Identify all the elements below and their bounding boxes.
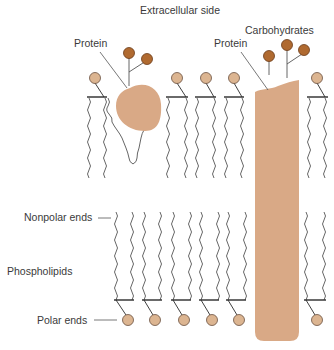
polar-head <box>150 315 161 326</box>
polar-head <box>234 315 245 326</box>
carbohydrate <box>124 48 135 59</box>
phospholipid-outer-5 <box>307 73 328 179</box>
phospholipid-inner-6 <box>304 212 326 326</box>
polar-head <box>201 73 212 84</box>
carbohydrate-chain-left <box>124 48 153 87</box>
protein-left-leader <box>100 52 127 88</box>
carbohydrates-label: Carbohydrates <box>245 24 314 36</box>
phospholipid-inner-5 <box>226 212 247 326</box>
phospholipid-outer-3 <box>195 73 216 179</box>
polar-head <box>207 315 218 326</box>
protein-left-label: Protein <box>74 37 107 49</box>
carbohydrate <box>299 45 310 56</box>
carbohydrate <box>142 54 153 65</box>
polar-head <box>123 315 134 326</box>
carbohydrate <box>264 51 275 62</box>
protein-right-label: Protein <box>214 37 247 49</box>
phospholipid-inner-3 <box>171 212 192 326</box>
cell-membrane-diagram: Extracellular side <box>0 0 334 350</box>
polar-ends-label: Polar ends <box>37 314 87 326</box>
phospholipid-outer-2 <box>166 73 188 179</box>
extracellular-side-title: Extracellular side <box>140 4 220 16</box>
polar-head <box>179 315 190 326</box>
phospholipid-inner-4 <box>199 212 220 326</box>
polar-head <box>312 73 323 84</box>
phospholipid-inner-1 <box>114 212 134 326</box>
polar-head <box>229 73 240 84</box>
integral-protein-right <box>255 80 299 341</box>
phospholipids-label: Phospholipids <box>7 265 72 277</box>
carbohydrate-chain-right <box>264 40 310 79</box>
carbohydrate <box>282 40 293 51</box>
phospholipid-outer-1 <box>87 73 107 179</box>
nonpolar-ends-label: Nonpolar ends <box>24 211 92 223</box>
peripheral-protein-left <box>116 85 161 131</box>
polar-head <box>172 73 183 84</box>
phospholipid-outer-4 <box>224 73 244 179</box>
phospholipid-inner-2 <box>142 212 162 326</box>
polar-head <box>312 315 323 326</box>
polar-head <box>90 73 101 84</box>
